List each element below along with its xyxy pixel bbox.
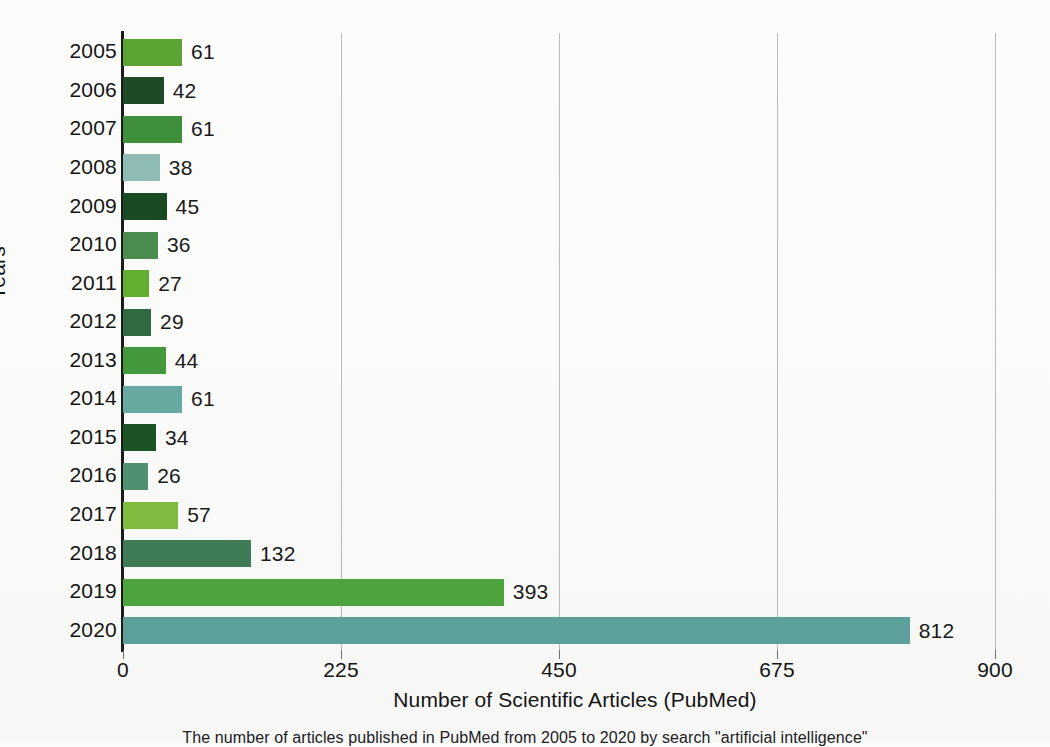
- bar-value-label: 57: [187, 503, 211, 527]
- y-axis-tick-label: 2010: [5, 232, 117, 256]
- bar-value-label: 26: [157, 464, 181, 488]
- bar-row: 38: [123, 154, 1050, 181]
- bar[interactable]: [123, 540, 251, 567]
- bar[interactable]: [123, 424, 156, 451]
- bar[interactable]: [123, 463, 148, 490]
- bar-row: 45: [123, 193, 1050, 220]
- bar[interactable]: [123, 77, 164, 104]
- bar-row: 44: [123, 347, 1050, 374]
- y-axis-tick-label: 2006: [5, 78, 117, 102]
- bar-row: 393: [123, 579, 1050, 606]
- bar[interactable]: [123, 386, 182, 413]
- x-axis-tick-label: 450: [541, 658, 577, 682]
- bar-row: 42: [123, 77, 1050, 104]
- y-axis-tick-label: 2017: [5, 502, 117, 526]
- bar[interactable]: [123, 502, 178, 529]
- bar-value-label: 29: [160, 310, 184, 334]
- bar-value-label: 44: [175, 349, 199, 373]
- y-axis-tick-label: 2020: [5, 618, 117, 642]
- bar[interactable]: [123, 154, 160, 181]
- bar[interactable]: [123, 116, 182, 143]
- y-axis-tick-label: 2005: [5, 39, 117, 63]
- x-axis-tick-label: 0: [117, 658, 129, 682]
- bar-row: 61: [123, 116, 1050, 143]
- bar[interactable]: [123, 579, 504, 606]
- bar-value-label: 38: [169, 156, 193, 180]
- bar-row: 36: [123, 232, 1050, 259]
- bar-row: 57: [123, 502, 1050, 529]
- bar-value-label: 61: [191, 117, 215, 141]
- y-axis-tick-label: 2007: [5, 116, 117, 140]
- bar-value-label: 36: [167, 233, 191, 257]
- bar-row: 29: [123, 309, 1050, 336]
- y-axis-tick-label: 2018: [5, 541, 117, 565]
- bar-value-label: 132: [260, 542, 296, 566]
- y-axis-tick-label: 2016: [5, 463, 117, 487]
- y-axis-tick-label: 2009: [5, 194, 117, 218]
- bar-row: 61: [123, 386, 1050, 413]
- bar[interactable]: [123, 347, 166, 374]
- bar-row: 812: [123, 617, 1050, 644]
- x-axis-tick-label: 225: [323, 658, 359, 682]
- y-axis-tick-label: 2011: [5, 271, 117, 295]
- figure-caption: The number of articles published in PubM…: [0, 729, 1050, 747]
- y-axis-tick-label: 2012: [5, 309, 117, 333]
- bar-value-label: 42: [173, 79, 197, 103]
- bar-value-label: 45: [176, 195, 200, 219]
- bar-value-label: 61: [191, 40, 215, 64]
- bar[interactable]: [123, 39, 182, 66]
- bar-row: 34: [123, 424, 1050, 451]
- x-axis-title: Number of Scientific Articles (PubMed): [0, 688, 1050, 712]
- bar[interactable]: [123, 309, 151, 336]
- bar-value-label: 61: [191, 387, 215, 411]
- bar-value-label: 34: [165, 426, 189, 450]
- bar-row: 26: [123, 463, 1050, 490]
- y-axis-tick-label: 2013: [5, 348, 117, 372]
- x-axis-tick-label: 900: [977, 658, 1013, 682]
- bar-row: 132: [123, 540, 1050, 567]
- y-axis-tick-label: 2014: [5, 386, 117, 410]
- bar-value-label: 393: [513, 580, 549, 604]
- bar-row: 61: [123, 39, 1050, 66]
- y-axis-tick-label: 2015: [5, 425, 117, 449]
- bar[interactable]: [123, 193, 167, 220]
- bar[interactable]: [123, 270, 149, 297]
- bar-value-label: 27: [158, 272, 182, 296]
- bar[interactable]: [123, 232, 158, 259]
- y-axis-tick-label: 2019: [5, 579, 117, 603]
- x-axis-tick-label: 675: [759, 658, 795, 682]
- bar[interactable]: [123, 617, 910, 644]
- y-axis-tick-label: 2008: [5, 155, 117, 179]
- bar-row: 27: [123, 270, 1050, 297]
- bar-value-label: 812: [919, 619, 955, 643]
